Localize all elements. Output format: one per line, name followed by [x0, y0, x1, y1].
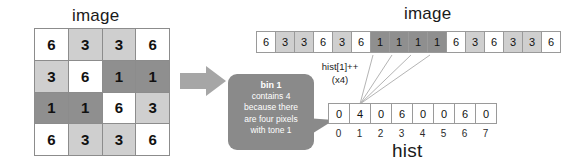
- hist-bin-0: 0: [329, 104, 349, 123]
- hist-bin-6: 6: [455, 104, 475, 123]
- hist-index-5: 5: [433, 126, 454, 140]
- hist-index-1: 1: [349, 126, 370, 140]
- strip-cell-0: 6: [257, 32, 275, 52]
- hist-bin-7: 0: [476, 104, 496, 123]
- pixel-cell-r1-c3: 1: [136, 61, 169, 92]
- flow-arrow-icon: [180, 66, 226, 96]
- strip-cell-14: 3: [523, 32, 541, 52]
- hist-bin-4: 0: [413, 104, 433, 123]
- callout-line-1: bin 1: [228, 80, 314, 91]
- callout-line-4: are four pixels: [228, 114, 314, 125]
- hist-index-6: 6: [454, 126, 475, 140]
- pixel-cell-r0-c1: 3: [69, 29, 102, 60]
- strip-cell-1: 3: [276, 32, 294, 52]
- strip-cell-4: 3: [333, 32, 351, 52]
- strip-cell-9: 1: [428, 32, 446, 52]
- strip-cell-3: 6: [314, 32, 332, 52]
- hist-bin-5: 0: [434, 104, 454, 123]
- histogram-index-labels: 01234567: [328, 126, 496, 140]
- pixel-cell-r3-c2: 3: [103, 124, 136, 155]
- callout-line-2: contains 4: [228, 91, 314, 102]
- pixel-cell-r2-c0: 1: [35, 93, 68, 124]
- strip-cell-13: 3: [504, 32, 522, 52]
- hist-index-7: 7: [475, 126, 496, 140]
- hist-index-0: 0: [328, 126, 349, 140]
- image-strip-title: image: [404, 4, 451, 24]
- pixel-cell-r1-c0: 3: [35, 61, 68, 92]
- pixel-cell-r2-c2: 6: [103, 93, 136, 124]
- strip-cell-7: 1: [390, 32, 408, 52]
- callout-line-5: with tone 1: [228, 125, 314, 136]
- strip-cell-11: 3: [466, 32, 484, 52]
- strip-cell-8: 1: [409, 32, 427, 52]
- histogram-array: 04060060: [328, 103, 497, 124]
- hist-index-2: 2: [370, 126, 391, 140]
- pixel-cell-r3-c3: 6: [136, 124, 169, 155]
- image-grid-title: image: [72, 6, 119, 26]
- pixel-cell-r0-c0: 6: [35, 29, 68, 60]
- callout-line-3: because there: [228, 102, 314, 113]
- strip-cell-10: 6: [447, 32, 465, 52]
- hist-title: hist: [392, 140, 422, 162]
- bin-explanation-callout: bin 1 contains 4 because there are four …: [228, 74, 314, 150]
- pixel-cell-r3-c0: 6: [35, 124, 68, 155]
- strip-cell-2: 3: [295, 32, 313, 52]
- strip-cell-12: 6: [485, 32, 503, 52]
- pixel-cell-r1-c1: 6: [69, 61, 102, 92]
- image-flattened-strip: 6336361111636336: [256, 31, 561, 53]
- pixel-cell-r0-c2: 3: [103, 29, 136, 60]
- strip-cell-5: 6: [352, 32, 370, 52]
- hist-bin-3: 6: [392, 104, 412, 123]
- pixel-cell-r2-c1: 1: [69, 93, 102, 124]
- hist-index-4: 4: [412, 126, 433, 140]
- hist-bin-2: 0: [371, 104, 391, 123]
- strip-cell-15: 6: [542, 32, 560, 52]
- pixel-cell-r1-c2: 1: [103, 61, 136, 92]
- image-pixel-grid: 6336361111636336: [34, 28, 170, 156]
- hist-index-3: 3: [391, 126, 412, 140]
- strip-cell-6: 1: [371, 32, 389, 52]
- histogram-diagram: image 6336361111636336 image 63363611116…: [0, 0, 573, 165]
- pixel-cell-r0-c3: 6: [136, 29, 169, 60]
- hist-increment-expression: hist[1]++: [299, 60, 381, 73]
- pixel-cell-r2-c3: 3: [136, 93, 169, 124]
- hist-bin-1: 4: [350, 104, 370, 123]
- pixel-cell-r3-c1: 3: [69, 124, 102, 155]
